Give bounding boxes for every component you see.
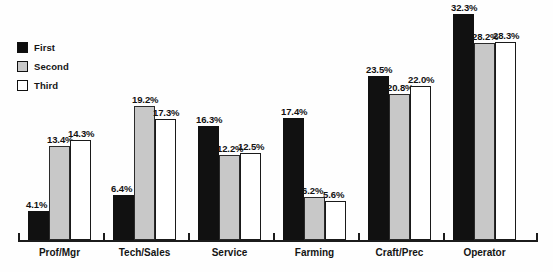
bar-value-label: 6.4%: [111, 183, 132, 194]
x-axis-label-tech-sales: Tech/Sales: [119, 247, 171, 258]
plot-area: 4.1%13.4%14.3%6.4%19.2%17.3%16.3%12.2%12…: [0, 0, 553, 241]
legend-swatch-third-icon: [17, 80, 28, 91]
x-axis-label-prof-mgr: Prof/Mgr: [39, 247, 80, 258]
bar-prof-mgr-first: [28, 211, 49, 240]
legend-label-first: First: [34, 42, 55, 53]
x-axis-tick: [188, 233, 190, 241]
bar-operator-third: [495, 42, 516, 240]
legend-item-second: Second: [17, 57, 69, 76]
x-axis-line: [18, 240, 538, 242]
bar-craft-prec-first: [368, 76, 389, 240]
legend-label-third: Third: [34, 80, 58, 91]
bar-value-label: 6.2%: [302, 185, 323, 196]
bar-value-label: 17.4%: [281, 106, 307, 117]
x-axis-tick: [443, 233, 445, 241]
bar-craft-prec-second: [389, 94, 410, 240]
x-axis-tick-end: [536, 233, 538, 241]
bar-value-label: 19.2%: [132, 94, 158, 105]
bar-farming-second: [304, 197, 325, 240]
bar-farming-first: [283, 118, 304, 240]
x-axis-label-craft-prec: Craft/Prec: [376, 247, 424, 258]
legend-item-first: First: [17, 38, 69, 57]
bar-tech-sales-third: [155, 119, 176, 240]
bar-value-label: 16.3%: [196, 114, 222, 125]
x-axis-tick: [103, 233, 105, 241]
x-axis-tick: [358, 233, 360, 241]
bar-value-label: 12.5%: [238, 141, 264, 152]
x-axis-label-farming: Farming: [295, 247, 334, 258]
legend-item-third: Third: [17, 76, 69, 95]
bar-value-label: 5.6%: [323, 189, 344, 200]
bar-service-third: [240, 153, 261, 240]
bar-value-label: 17.3%: [153, 107, 179, 118]
legend-label-second: Second: [34, 61, 69, 72]
bar-value-label: 14.3%: [68, 128, 94, 139]
bar-chart: First Second Third 4.1%13.4%14.3%6.4%19.…: [0, 0, 553, 272]
x-axis-tick: [273, 233, 275, 241]
bar-tech-sales-second: [134, 106, 155, 240]
legend-swatch-first-icon: [17, 42, 28, 53]
bar-operator-second: [474, 43, 495, 240]
bar-value-label: 4.1%: [26, 199, 47, 210]
x-axis-label-operator: Operator: [463, 247, 505, 258]
legend-swatch-second-icon: [17, 61, 28, 72]
bar-farming-third: [325, 201, 346, 240]
bar-prof-mgr-second: [49, 146, 70, 240]
chart-legend: First Second Third: [17, 38, 69, 95]
bar-value-label: 22.0%: [408, 74, 434, 85]
bar-value-label: 28.3%: [493, 30, 519, 41]
bar-tech-sales-first: [113, 195, 134, 240]
bar-operator-first: [453, 14, 474, 240]
bar-service-second: [219, 155, 240, 240]
bar-value-label: 23.5%: [366, 64, 392, 75]
bar-service-first: [198, 126, 219, 240]
bar-prof-mgr-third: [70, 140, 91, 240]
bar-value-label: 32.3%: [451, 2, 477, 13]
x-axis-label-service: Service: [212, 247, 248, 258]
x-axis-tick: [18, 233, 20, 241]
bar-craft-prec-third: [410, 86, 431, 240]
